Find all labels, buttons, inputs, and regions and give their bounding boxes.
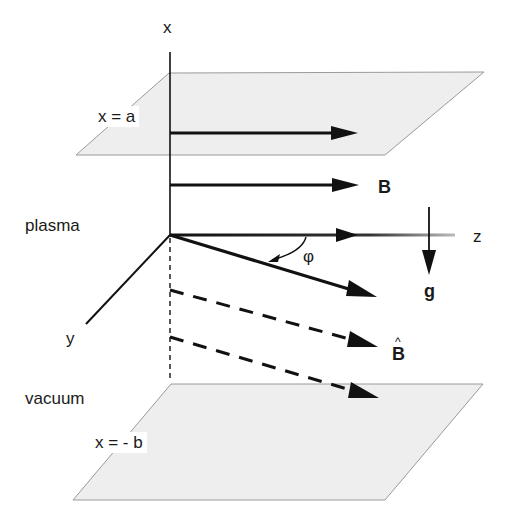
y-axis-label: y: [66, 330, 75, 347]
angle-phi-label: φ: [303, 248, 314, 265]
b-field-label: B: [378, 178, 391, 196]
b-hat-label: ^ B: [392, 345, 405, 363]
rotated-field-arrow: [170, 235, 352, 290]
z-axis-label: z: [473, 228, 482, 245]
vacuum-region-label: vacuum: [25, 390, 85, 407]
bhat-dashed-arrow-1: [170, 290, 353, 340]
diagram-graphics: [0, 0, 510, 525]
angle-phi-arrowhead: [268, 254, 280, 262]
b-hat-accent: ^: [395, 336, 401, 348]
gravity-label: g: [424, 282, 435, 300]
bhat-arrowhead-1: [347, 331, 378, 347]
gravity-arrowhead: [422, 250, 436, 275]
z-axis: [170, 234, 455, 237]
lower-plane-label: x = - b: [91, 432, 147, 453]
bhat-dashed-arrow-2: [170, 337, 354, 391]
y-axis: [86, 235, 170, 324]
plasma-region-label: plasma: [25, 217, 80, 234]
diagram-canvas: x x = a B plasma z φ g y ^ B vacuum x = …: [0, 0, 510, 525]
b-field-arrowhead: [332, 178, 359, 192]
x-axis-label: x: [163, 19, 172, 36]
z-axis-arrowhead: [336, 228, 358, 242]
rotated-field-arrowhead: [346, 280, 377, 297]
upper-plane-label: x = a: [94, 106, 139, 127]
